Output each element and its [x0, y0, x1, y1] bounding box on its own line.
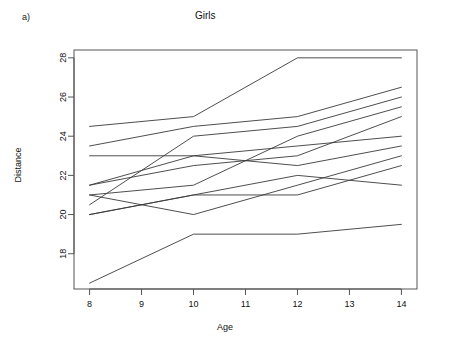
- x-tick-label: 9: [139, 299, 144, 309]
- series-line: [90, 58, 402, 127]
- x-tick-label: 10: [189, 299, 199, 309]
- y-tick-label: 18: [58, 249, 68, 259]
- series-line: [90, 166, 402, 215]
- x-tick-label: 12: [292, 299, 302, 309]
- x-tick-label: 13: [344, 299, 354, 309]
- data-series-layer: [90, 58, 402, 283]
- x-tick-label: 11: [241, 299, 250, 309]
- plot-frame: [74, 50, 417, 289]
- y-tick-label: 26: [58, 92, 68, 102]
- y-axis-label: Distance: [13, 130, 23, 200]
- y-tick-label: 22: [58, 170, 68, 180]
- x-tick-label: 8: [87, 299, 92, 309]
- figure-panel: a) Girls 891011121314182022242628 Age Di…: [0, 0, 450, 351]
- x-tick-label: 14: [396, 299, 406, 309]
- series-line: [90, 146, 402, 185]
- series-line: [90, 224, 402, 283]
- y-tick-label: 24: [58, 131, 68, 141]
- series-line: [90, 87, 402, 146]
- y-tick-label: 28: [58, 53, 68, 63]
- series-line: [90, 136, 402, 156]
- y-tick-label: 20: [58, 210, 68, 220]
- panel-letter: a): [22, 12, 30, 22]
- line-chart-canvas: 891011121314182022242628: [0, 0, 450, 351]
- chart-title: Girls: [195, 10, 216, 21]
- x-axis-label: Age: [0, 322, 450, 332]
